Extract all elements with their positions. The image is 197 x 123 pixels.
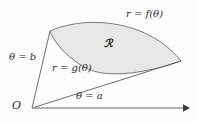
label-origin-O: O xyxy=(12,100,21,111)
label-region-R: ℛ xyxy=(104,38,113,49)
label-outer-curve: r = f(θ) xyxy=(126,9,163,19)
label-ray-theta-b: θ = b xyxy=(9,52,36,62)
axis-arrow-icon xyxy=(183,104,190,112)
label-inner-curve: r = g(θ) xyxy=(52,63,92,73)
ray-theta-b-line xyxy=(32,31,50,108)
polar-region-figure: r = f(θ) r = g(θ) θ = b θ = a O ℛ xyxy=(0,0,197,123)
label-ray-theta-a: θ = a xyxy=(76,91,103,101)
